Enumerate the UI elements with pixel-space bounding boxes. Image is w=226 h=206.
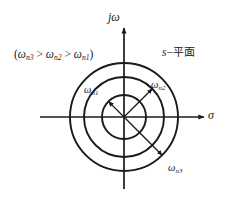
omega-symbol-3: ω [18, 48, 26, 60]
omega-symbol-2: ω [46, 48, 54, 60]
radius-arrow-wn3 [124, 117, 162, 155]
wn2-subscript: n2 [158, 84, 165, 91]
s-plane-label: s−平面 [162, 47, 195, 59]
circle-label-wn3: ωn3 [168, 163, 182, 175]
jomega-axis-label: jω [108, 11, 120, 23]
greater-than-1: > [36, 48, 43, 60]
wn1-subscript: n1 [91, 89, 98, 96]
circle-label-wn1: ωn1 [84, 85, 98, 97]
wn3-subscript: n3 [175, 167, 182, 174]
omega-symbol-1: ω [74, 48, 82, 60]
figure-canvas [0, 0, 226, 206]
omega-subscript-3: n3 [26, 53, 34, 62]
omega-subscript-2: n2 [54, 53, 62, 62]
circle-label-wn2: ωn2 [151, 80, 165, 92]
radius-arrow-wn2 [124, 89, 152, 117]
radius-arrow-wn1 [108, 101, 124, 117]
s-plane-cjk: 平面 [173, 46, 195, 59]
inequality-annotation: (ωn3 > ωn2 > ωn1) [14, 49, 93, 62]
greater-than-2: > [64, 48, 71, 60]
s-plane-figure: (ωn3 > ωn2 > ωn1) s−平面 jω σ ωn1 ωn2 ωn3 [0, 0, 226, 206]
sigma-axis-label: σ [208, 109, 214, 121]
